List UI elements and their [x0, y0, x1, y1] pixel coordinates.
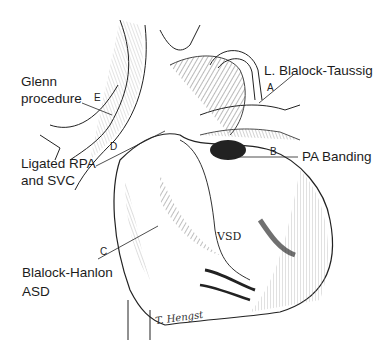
- label-glenn-line2: procedure: [21, 90, 82, 107]
- label-blalock-hanlon-line2: ASD: [22, 283, 50, 300]
- label-ligated-rpa-line2: and SVC: [21, 172, 75, 189]
- letter-c: C: [100, 246, 107, 257]
- label-blalock-hanlon-line1: Blalock-Hanlon: [22, 264, 113, 281]
- label-vsd: VSD: [217, 230, 241, 243]
- letter-e: E: [94, 92, 101, 103]
- letter-d: D: [110, 141, 117, 152]
- figure-stage: Glenn procedure E Ligated RPA and SVC D …: [0, 0, 391, 358]
- letter-a: A: [267, 82, 274, 93]
- label-l-blalock-taussig: L. Blalock-Taussig: [264, 62, 373, 79]
- letter-b: B: [270, 146, 277, 157]
- label-pa-banding: PA Banding: [302, 148, 372, 165]
- label-glenn-line1: Glenn: [21, 73, 57, 90]
- label-ligated-rpa-line1: Ligated RPA: [21, 155, 96, 172]
